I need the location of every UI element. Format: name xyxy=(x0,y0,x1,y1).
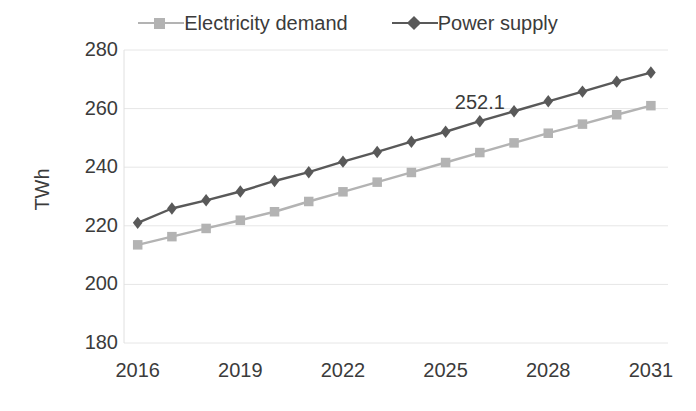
series-power-supply xyxy=(133,66,656,229)
line-chart: Electricity demand Power supply TWh 1802… xyxy=(0,0,696,411)
data-point-marker xyxy=(236,215,246,225)
data-point-marker xyxy=(509,138,519,148)
data-point-marker xyxy=(441,158,451,168)
data-point-marker xyxy=(475,115,485,127)
data-point-marker xyxy=(441,126,451,138)
data-point-marker xyxy=(338,187,348,197)
data-point-marker xyxy=(167,232,177,242)
data-point-marker xyxy=(646,101,656,111)
data-point-marker xyxy=(407,168,417,178)
data-point-marker xyxy=(201,194,211,206)
plot-area xyxy=(0,0,696,411)
data-point-marker xyxy=(578,85,588,97)
series-electricity-demand xyxy=(133,101,656,250)
data-point-marker xyxy=(338,155,348,167)
data-point-marker xyxy=(270,207,280,217)
data-point-marker xyxy=(372,177,382,187)
data-point-marker xyxy=(304,166,314,178)
data-label-annotation: 252.1 xyxy=(455,90,505,113)
data-point-marker xyxy=(235,185,245,197)
data-point-marker xyxy=(646,66,656,78)
data-point-marker xyxy=(578,119,588,129)
data-point-marker xyxy=(372,146,382,158)
data-point-marker xyxy=(509,105,519,117)
data-point-marker xyxy=(544,128,554,138)
data-point-marker xyxy=(133,240,143,250)
data-point-marker xyxy=(543,95,553,107)
data-point-marker xyxy=(201,224,211,234)
data-point-marker xyxy=(407,136,417,148)
series-line-0 xyxy=(138,106,651,245)
data-point-marker xyxy=(612,75,622,87)
data-point-marker xyxy=(133,217,143,229)
data-point-marker xyxy=(475,148,485,158)
data-point-marker xyxy=(167,202,177,214)
data-point-marker xyxy=(270,175,280,187)
series-line-1 xyxy=(138,73,651,223)
data-point-marker xyxy=(304,197,314,207)
data-point-marker xyxy=(612,110,622,120)
